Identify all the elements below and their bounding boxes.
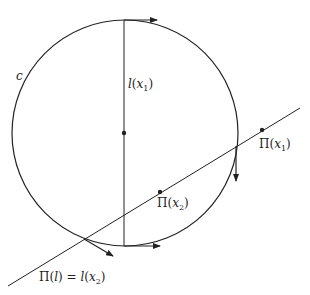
- point-pi-x2: [158, 190, 162, 194]
- point-pi-x1: [260, 128, 264, 132]
- label-l-x1: l(x1): [128, 77, 153, 93]
- circle-label-c: c: [16, 69, 23, 83]
- diagram-canvas: c l(x1) Π(x1) Π(x2) Π(l) = l(x2): [0, 0, 310, 295]
- lower-left-tangent-arrow-icon: [84, 239, 113, 256]
- center-point: [122, 131, 126, 135]
- secant-line-pi-l: [8, 108, 300, 286]
- label-pi-x1: Π(x1): [259, 137, 291, 153]
- label-pi-l-equals-l-x2: Π(l) = l(x2): [39, 270, 105, 286]
- label-pi-x2: Π(x2): [157, 196, 189, 212]
